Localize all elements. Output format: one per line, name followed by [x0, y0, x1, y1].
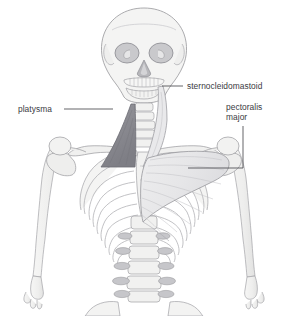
- label-pectoralis-major-line2: major: [226, 112, 247, 122]
- label-platysma: platysma: [18, 104, 52, 114]
- label-pectoralis-major-line1: pectoralis: [226, 102, 262, 112]
- skeleton-illustration: [0, 0, 288, 316]
- label-pectoralis-major: pectoralismajor: [226, 102, 262, 122]
- label-sternocleidomastoid: sternocleidomastoid: [187, 81, 262, 91]
- anatomy-figure: sternocleidomastoid platysma pectoralism…: [0, 0, 288, 316]
